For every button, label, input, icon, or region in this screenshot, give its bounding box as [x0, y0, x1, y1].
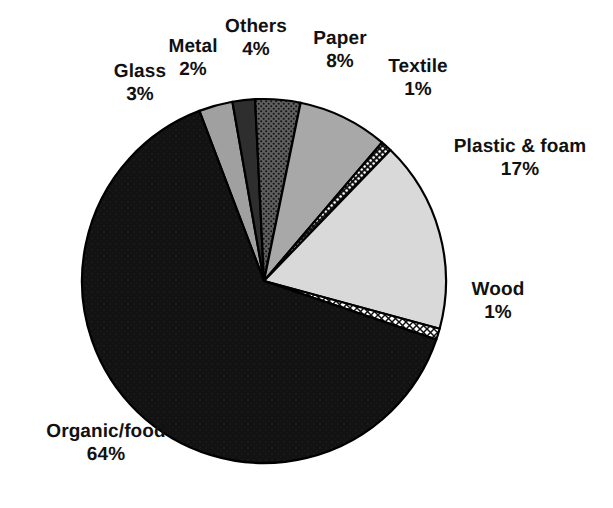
slice-label-others: Others 4% [208, 15, 304, 61]
slice-label-wood-value: 1% [452, 301, 544, 324]
slice-label-paper-name: Paper [313, 28, 366, 49]
slice-label-textile-value: 1% [366, 78, 470, 101]
slice-label-glass-value: 3% [92, 83, 188, 106]
pie-chart-page: Glass 3% Metal 2% Others 4% Paper 8% Tex… [0, 0, 613, 508]
pie-chart-figure: Glass 3% Metal 2% Others 4% Paper 8% Tex… [0, 0, 613, 508]
slice-label-textile: Textile 1% [366, 55, 470, 101]
slice-label-wood-name: Wood [472, 279, 525, 300]
slice-label-organic-food-value: 64% [18, 443, 194, 466]
pie-slices [82, 99, 446, 463]
slice-label-textile-name: Textile [388, 56, 447, 77]
slice-label-others-name: Others [225, 16, 287, 37]
slice-label-plastic-and-foam-name: Plastic & foam [454, 136, 586, 157]
slice-label-wood: Wood 1% [452, 278, 544, 324]
slice-label-organic-food-name: Organic/food [46, 421, 165, 442]
slice-label-metal-value: 2% [145, 58, 241, 81]
slice-label-plastic-and-foam: Plastic & foam 17% [432, 135, 608, 181]
slice-label-organic-food: Organic/food 64% [18, 420, 194, 466]
slice-label-plastic-and-foam-value: 17% [432, 158, 608, 181]
slice-label-others-value: 4% [208, 38, 304, 61]
